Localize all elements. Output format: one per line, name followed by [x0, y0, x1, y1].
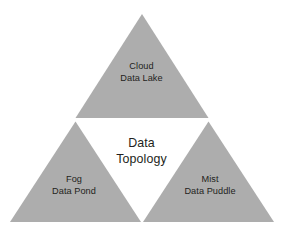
node-label-cloud-line2: Data Lake: [0, 73, 283, 85]
node-label-cloud-line1: Cloud: [0, 61, 283, 73]
node-label-fog-line1: Fog: [7, 174, 141, 186]
triangle-graphic: [0, 0, 283, 234]
data-topology-diagram: Cloud Data Lake Fog Data Pond Mist Data …: [0, 0, 283, 234]
center-label-line1: Data: [0, 136, 283, 152]
node-label-fog: Fog Data Pond: [7, 174, 141, 198]
node-label-mist: Mist Data Puddle: [143, 174, 277, 198]
node-label-cloud: Cloud Data Lake: [0, 61, 283, 85]
node-label-mist-line2: Data Puddle: [143, 186, 277, 198]
center-label-data-topology: Data Topology: [0, 136, 283, 168]
node-label-fog-line2: Data Pond: [7, 186, 141, 198]
center-label-line2: Topology: [0, 152, 283, 168]
node-label-mist-line1: Mist: [143, 174, 277, 186]
